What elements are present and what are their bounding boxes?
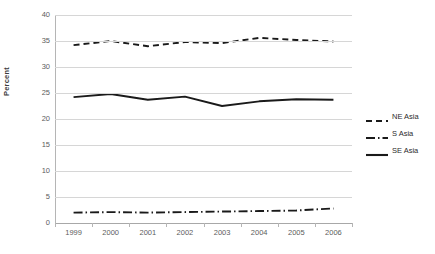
x-tick-mark	[352, 223, 353, 227]
y-tick-label: 30	[28, 63, 50, 71]
legend-item-ne-asia[interactable]: NE Asia	[366, 108, 434, 125]
series-line-s-asia	[74, 208, 334, 212]
legend-label: S Asia	[392, 129, 413, 138]
plot-area	[55, 15, 352, 223]
y-tick-label: 15	[28, 141, 50, 149]
y-tick-label: 10	[28, 167, 50, 175]
gridline	[55, 119, 352, 120]
x-tick-label: 2004	[239, 228, 279, 237]
x-tick-label: 2006	[313, 228, 353, 237]
x-tick-mark	[204, 223, 205, 227]
x-tick-mark	[55, 223, 56, 227]
legend-item-s-asia[interactable]: S Asia	[366, 125, 434, 142]
dashed-line-swatch	[366, 112, 388, 122]
legend-label: SE Asia	[392, 146, 418, 155]
x-tick-mark	[241, 223, 242, 227]
x-tick-label: 2002	[165, 228, 205, 237]
x-tick-mark	[92, 223, 93, 227]
dash-dot-line-swatch	[366, 129, 388, 139]
line-chart: Percent 0510152025303540 199920002001200…	[0, 0, 435, 254]
y-axis-title: Percent	[2, 67, 11, 96]
y-tick-label: 5	[28, 193, 50, 201]
x-tick-mark	[129, 223, 130, 227]
x-tick-label: 1999	[54, 228, 94, 237]
x-tick-mark	[166, 223, 167, 227]
x-tick-mark	[315, 223, 316, 227]
series-line-ne-asia	[74, 38, 334, 46]
x-tick-label: 2000	[91, 228, 131, 237]
y-tick-label: 0	[28, 219, 50, 227]
solid-line-swatch	[366, 146, 388, 156]
chart-legend: NE AsiaS AsiaSE Asia	[366, 108, 434, 159]
y-tick-label: 40	[28, 11, 50, 19]
x-tick-label: 2005	[276, 228, 316, 237]
gridline	[55, 93, 352, 94]
legend-label: NE Asia	[392, 112, 419, 121]
x-tick-label: 2003	[202, 228, 242, 237]
gridline	[55, 197, 352, 198]
y-tick-label: 25	[28, 89, 50, 97]
series-line-se-asia	[74, 94, 334, 106]
x-tick-label: 2001	[128, 228, 168, 237]
y-tick-label: 20	[28, 115, 50, 123]
y-axis-tick-labels: 0510152025303540	[26, 0, 50, 254]
y-tick-label: 35	[28, 37, 50, 45]
gridline	[55, 67, 352, 68]
gridline	[55, 171, 352, 172]
gridline	[55, 145, 352, 146]
gridline	[55, 41, 352, 42]
legend-item-se-asia[interactable]: SE Asia	[366, 142, 434, 159]
x-tick-mark	[278, 223, 279, 227]
gridline	[55, 15, 352, 16]
